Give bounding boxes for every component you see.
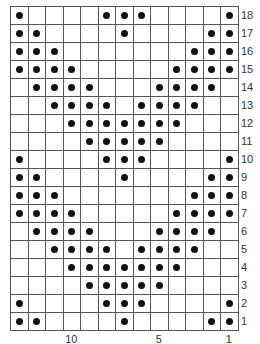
chart-cell <box>186 241 204 259</box>
chart-cell <box>134 97 152 115</box>
chart-cell <box>169 115 187 133</box>
chart-cell <box>169 61 187 79</box>
chart-cell <box>204 115 222 133</box>
chart-cell <box>64 223 82 241</box>
chart-cell <box>11 133 29 151</box>
row-label: 11 <box>241 132 253 150</box>
chart-cell <box>186 205 204 223</box>
chart-cell <box>99 61 117 79</box>
dot-symbol-icon <box>68 102 75 109</box>
chart-cell <box>11 277 29 295</box>
chart-cell <box>11 151 29 169</box>
chart-cell <box>81 79 99 97</box>
chart-cell <box>186 295 204 313</box>
dot-symbol-icon <box>156 138 163 145</box>
chart-cell <box>221 295 239 313</box>
chart-cell <box>29 25 47 43</box>
dot-symbol-icon <box>103 246 110 253</box>
dot-symbol-icon <box>173 246 180 253</box>
chart-cell <box>81 277 99 295</box>
chart-cell <box>221 43 239 61</box>
dot-symbol-icon <box>173 264 180 271</box>
chart-cell <box>29 97 47 115</box>
chart-cell <box>46 295 64 313</box>
dot-symbol-icon <box>208 192 215 199</box>
chart-cell <box>64 187 82 205</box>
chart-cell <box>204 259 222 277</box>
chart-cell <box>204 277 222 295</box>
dot-symbol-icon <box>208 318 215 325</box>
dot-symbol-icon <box>103 138 110 145</box>
dot-symbol-icon <box>16 48 23 55</box>
dot-symbol-icon <box>103 264 110 271</box>
dot-symbol-icon <box>68 210 75 217</box>
chart-cell <box>46 25 64 43</box>
chart-cell <box>11 295 29 313</box>
dot-symbol-icon <box>103 120 110 127</box>
dot-symbol-icon <box>86 264 93 271</box>
chart-cell <box>46 133 64 151</box>
chart-cell <box>186 223 204 241</box>
chart-cell <box>116 97 134 115</box>
chart-cell <box>221 97 239 115</box>
row-label: 1 <box>241 312 253 330</box>
chart-cell <box>221 241 239 259</box>
chart-cell <box>81 115 99 133</box>
chart-cell <box>134 295 152 313</box>
chart-cell <box>134 61 152 79</box>
chart-cell <box>134 259 152 277</box>
dot-symbol-icon <box>16 300 23 307</box>
row-label: 18 <box>241 6 253 24</box>
dot-symbol-icon <box>51 228 58 235</box>
chart-cell <box>134 205 152 223</box>
dot-symbol-icon <box>86 228 93 235</box>
chart-cell <box>99 313 117 331</box>
chart-cell <box>64 205 82 223</box>
chart-cell <box>81 43 99 61</box>
chart-cell <box>116 277 134 295</box>
chart-cell <box>151 169 169 187</box>
chart-cell <box>29 241 47 259</box>
chart-cell <box>64 97 82 115</box>
dot-symbol-icon <box>121 12 128 19</box>
row-label: 14 <box>241 78 253 96</box>
dot-symbol-icon <box>103 300 110 307</box>
chart-cell <box>151 97 169 115</box>
chart-cell <box>204 241 222 259</box>
dot-symbol-icon <box>173 66 180 73</box>
chart-cell <box>204 313 222 331</box>
chart-cell <box>151 277 169 295</box>
chart-cell <box>116 313 134 331</box>
chart-cell <box>134 313 152 331</box>
chart-cell <box>81 169 99 187</box>
chart-cell <box>134 79 152 97</box>
chart-cell <box>186 313 204 331</box>
dot-symbol-icon <box>68 246 75 253</box>
chart-cell <box>11 61 29 79</box>
chart-cell <box>221 133 239 151</box>
chart-cell <box>221 151 239 169</box>
chart-cell <box>99 25 117 43</box>
dot-symbol-icon <box>103 282 110 289</box>
dot-symbol-icon <box>208 48 215 55</box>
chart-cell <box>186 43 204 61</box>
chart-cell <box>11 187 29 205</box>
chart-cell <box>46 277 64 295</box>
chart-cell <box>46 313 64 331</box>
dot-symbol-icon <box>226 192 233 199</box>
chart-cell <box>134 241 152 259</box>
chart-cell <box>169 313 187 331</box>
chart-cell <box>134 7 152 25</box>
chart-cell <box>169 259 187 277</box>
chart-cell <box>64 313 82 331</box>
column-label: 10 <box>65 333 77 344</box>
chart-cell <box>169 223 187 241</box>
chart-cell <box>99 43 117 61</box>
dot-symbol-icon <box>138 246 145 253</box>
dot-symbol-icon <box>86 282 93 289</box>
chart-cell <box>116 133 134 151</box>
column-label: 5 <box>156 333 162 344</box>
column-number-labels: 1051 <box>10 331 238 344</box>
chart-cell <box>64 79 82 97</box>
dot-symbol-icon <box>173 102 180 109</box>
